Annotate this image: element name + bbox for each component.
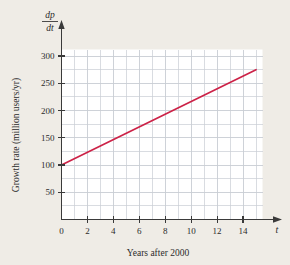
x-axis-tick-label: 8 [163, 226, 168, 236]
y-axis-tick-label: 100 [41, 160, 55, 170]
x-axis-tick-label: 14 [239, 226, 249, 236]
x-axis-arrowhead [273, 216, 282, 222]
y-axis-tick-label: 200 [41, 106, 55, 116]
x-axis-tick-label: 6 [137, 226, 142, 236]
plot-panel [62, 50, 263, 220]
y-axis-title: Growth rate (million users/yr) [11, 78, 22, 192]
y-axis-tick-label: 150 [41, 133, 55, 143]
y-axis-arrowhead [58, 20, 64, 29]
chart-figure: 5010015020025030002468101214tdpdtYears a… [0, 0, 290, 265]
x-axis-tick-label: 0 [59, 226, 64, 236]
y-axis-tick-label: 300 [41, 51, 55, 61]
x-axis-tick-label: 10 [187, 226, 197, 236]
y-axis-variable-denominator: dt [46, 23, 54, 33]
x-axis-tick-label: 2 [85, 226, 90, 236]
y-axis-tick-label: 250 [41, 78, 55, 88]
y-axis-variable-numerator: dp [45, 10, 55, 20]
x-axis-variable-label: t [276, 224, 279, 235]
x-axis-title: Years after 2000 [127, 248, 190, 258]
growth-rate-line-chart: 5010015020025030002468101214tdpdtYears a… [0, 0, 290, 265]
x-axis-tick-label: 12 [213, 226, 222, 236]
y-axis-tick-label: 50 [46, 187, 56, 197]
x-axis-tick-label: 4 [111, 226, 116, 236]
